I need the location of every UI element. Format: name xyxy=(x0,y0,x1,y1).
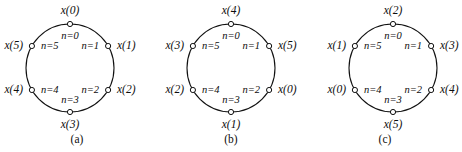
index-label-n1: n=1 xyxy=(404,41,422,52)
sample-label-n4: x(2) xyxy=(165,84,184,96)
node-n3 xyxy=(390,109,395,114)
node-n2 xyxy=(429,87,434,92)
node-n5 xyxy=(352,43,357,48)
node-n0 xyxy=(390,21,395,26)
index-label-n3: n=3 xyxy=(61,95,79,106)
sample-label-n3: x(1) xyxy=(222,119,241,131)
panel-caption-b: (b) xyxy=(224,133,237,145)
node-n4 xyxy=(190,87,195,92)
node-n3 xyxy=(228,109,233,114)
node-n1 xyxy=(267,43,272,48)
sample-label-n5: x(3) xyxy=(165,40,184,52)
node-n2 xyxy=(267,87,272,92)
figure-circular-index-diagrams: x(0) x(1) x(2) x(3) x(4) x(5) n=0 n=1 n=… xyxy=(0,0,462,152)
index-label-n5: n=5 xyxy=(202,41,220,52)
sample-label-n0: x(2) xyxy=(384,5,403,17)
panel-caption-c: (c) xyxy=(379,133,392,145)
index-label-n0: n=0 xyxy=(61,31,79,42)
node-n0 xyxy=(228,21,233,26)
index-label-n2: n=2 xyxy=(81,85,99,96)
index-label-n0: n=0 xyxy=(384,31,402,42)
index-label-n3: n=3 xyxy=(384,95,402,106)
diagram-panel-c: x(2) x(3) x(4) x(5) x(0) x(1) n=0 n=1 n=… xyxy=(308,0,462,152)
sample-label-n4: x(0) xyxy=(327,84,346,96)
index-label-n4: n=4 xyxy=(41,85,59,96)
node-n4 xyxy=(352,87,357,92)
index-label-n4: n=4 xyxy=(202,85,220,96)
node-n4 xyxy=(29,87,34,92)
node-n5 xyxy=(190,43,195,48)
sample-label-n3: x(3) xyxy=(61,119,80,131)
index-label-n3: n=3 xyxy=(222,95,240,106)
node-n5 xyxy=(29,43,34,48)
sample-label-n2: x(4) xyxy=(440,84,459,96)
diagram-panel-b: x(4) x(5) x(0) x(1) x(2) x(3) n=0 n=1 n=… xyxy=(154,0,308,152)
index-label-n4: n=4 xyxy=(364,85,382,96)
index-label-n5: n=5 xyxy=(364,41,382,52)
sample-label-n2: x(2) xyxy=(117,84,136,96)
index-label-n2: n=2 xyxy=(242,85,260,96)
index-label-n5: n=5 xyxy=(41,41,59,52)
sample-label-n1: x(3) xyxy=(440,40,459,52)
sample-label-n1: x(5) xyxy=(278,40,297,52)
sample-label-n5: x(5) xyxy=(4,40,23,52)
panel-caption-a: (a) xyxy=(71,133,84,145)
index-label-n1: n=1 xyxy=(81,41,99,52)
node-n1 xyxy=(106,43,111,48)
index-label-n0: n=0 xyxy=(222,31,240,42)
node-n3 xyxy=(67,109,72,114)
sample-label-n3: x(5) xyxy=(384,119,403,131)
index-label-n2: n=2 xyxy=(404,85,422,96)
node-n0 xyxy=(67,21,72,26)
diagram-panel-a: x(0) x(1) x(2) x(3) x(4) x(5) n=0 n=1 n=… xyxy=(0,0,154,152)
index-label-n1: n=1 xyxy=(242,41,260,52)
sample-label-n0: x(4) xyxy=(222,5,241,17)
sample-label-n4: x(4) xyxy=(4,84,23,96)
sample-label-n2: x(0) xyxy=(278,84,297,96)
sample-label-n0: x(0) xyxy=(61,5,80,17)
node-n2 xyxy=(106,87,111,92)
sample-label-n1: x(1) xyxy=(117,40,136,52)
node-n1 xyxy=(429,43,434,48)
sample-label-n5: x(1) xyxy=(327,40,346,52)
